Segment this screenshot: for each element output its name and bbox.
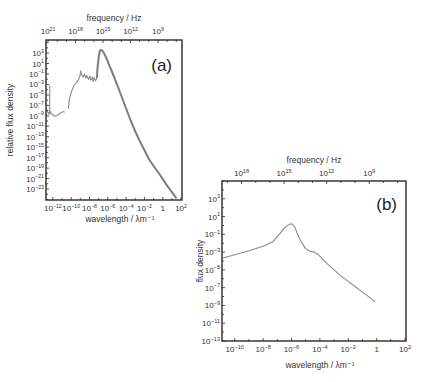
series-line-spectrum-mid <box>68 71 96 109</box>
x-tick-label: 10−10 <box>226 344 244 355</box>
top-tick-label: 1018 <box>234 168 249 179</box>
y-tick-label: 10−1 <box>205 229 220 240</box>
x-tick-label: 10−2 <box>137 203 152 214</box>
top-tick-label: 1015 <box>277 168 292 179</box>
y-tick-label: 10−1 <box>29 68 44 79</box>
top-tick-label: 1012 <box>319 168 334 179</box>
y-tick-label: 10−23 <box>26 184 44 195</box>
x-tick-label: 10−10 <box>62 203 80 214</box>
x-tick-label: 10−12 <box>44 203 62 214</box>
top-axis-title: frequency / Hz <box>87 13 142 23</box>
figure: 10−1210−1010−810−610−410−2110210310110−1… <box>0 0 424 382</box>
x-tick-label: 10−4 <box>312 344 327 355</box>
top-axis-title: frequency / Hz <box>287 155 342 165</box>
top-tick-label: 1021 <box>41 26 56 37</box>
y-tick-label: 10−7 <box>205 282 220 293</box>
panel-b: 10−1010−810−610−410−2110210310110−110−31… <box>195 155 411 370</box>
y-tick-label: 10−15 <box>26 142 44 153</box>
x-tick-label: 102 <box>175 203 187 214</box>
y-tick-label: 10−17 <box>26 152 44 163</box>
top-tick-label: 1018 <box>68 26 83 37</box>
y-axis-title: flux density <box>195 239 205 282</box>
y-tick-label: 10−11 <box>27 121 45 132</box>
y-tick-label: 101 <box>208 211 220 222</box>
y-tick-label: 10−13 <box>202 336 220 347</box>
x-tick-label: 10−8 <box>82 203 97 214</box>
x-tick-label: 10−2 <box>341 344 356 355</box>
y-tick-label: 10−11 <box>202 318 220 329</box>
y-axis-title: relative flux density <box>5 83 15 156</box>
x-axis-title: wavelength / λm⁻¹ <box>284 360 354 370</box>
y-tick-label: 103 <box>208 193 220 204</box>
y-tick-label: 10−3 <box>29 79 44 90</box>
y-tick-label: 10−9 <box>29 110 44 121</box>
x-tick-label: 10−8 <box>255 344 270 355</box>
y-tick-label: 10−13 <box>26 131 44 142</box>
panel-label: (a) <box>151 56 172 75</box>
x-tick-label: 1 <box>374 345 379 354</box>
y-tick-label: 10−3 <box>205 247 220 258</box>
y-tick-label: 103 <box>32 48 44 59</box>
y-tick-label: 10−9 <box>205 300 220 311</box>
y-tick-label: 101 <box>32 58 44 69</box>
x-axis-title: wavelength / λm⁻¹ <box>84 214 154 224</box>
y-tick-label: 10−5 <box>205 264 220 275</box>
x-tick-label: 10−6 <box>284 344 299 355</box>
y-tick-label: 10−19 <box>26 163 44 174</box>
x-tick-label: 1 <box>161 204 166 213</box>
series-line-flux <box>222 224 375 302</box>
top-tick-label: 1015 <box>96 26 111 37</box>
panel-a: 10−1210−1010−810−610−410−2110210310110−1… <box>5 13 187 224</box>
top-tick-label: 1012 <box>123 26 138 37</box>
top-tick-label: 109 <box>152 26 164 37</box>
x-tick-label: 10−6 <box>100 203 115 214</box>
y-tick-label: 10−21 <box>26 173 44 184</box>
x-tick-label: 102 <box>399 344 411 355</box>
x-tick-label: 10−4 <box>119 203 134 214</box>
panel-label: (b) <box>376 195 397 214</box>
y-tick-label: 10−5 <box>29 89 44 100</box>
y-tick-label: 10−7 <box>29 100 44 111</box>
top-tick-label: 109 <box>363 168 375 179</box>
